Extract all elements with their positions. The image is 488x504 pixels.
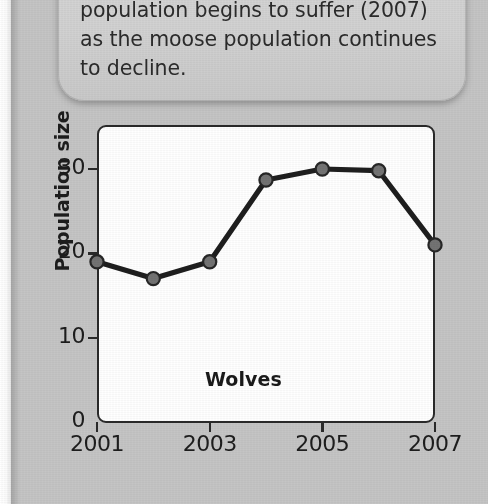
page-left-edge [0, 0, 11, 504]
scanned-page: population begins to suffer (2007) as th… [0, 0, 488, 504]
data-point-marker [372, 164, 385, 177]
data-series-layer [0, 0, 488, 504]
data-point-marker [147, 272, 160, 285]
data-point-marker [428, 238, 441, 251]
data-point-marker [90, 255, 103, 268]
data-point-marker [259, 173, 272, 186]
data-point-marker [203, 255, 216, 268]
wolves-population-chart: Population size 0102030 2001200320052007… [0, 0, 488, 504]
page-left-edge-shadow [11, 0, 20, 504]
data-point-marker [316, 162, 329, 175]
